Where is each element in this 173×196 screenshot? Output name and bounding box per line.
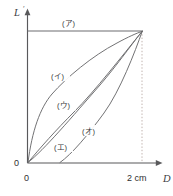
curve-tag-u-group: (ウ) bbox=[56, 100, 76, 111]
curve-tag-u: (ウ) bbox=[57, 101, 71, 110]
x-axis-arrow-icon bbox=[156, 160, 163, 166]
y-axis-arrow-icon bbox=[25, 9, 31, 16]
curve-tag-a: (ア) bbox=[62, 19, 76, 28]
curve-tag-e: (エ) bbox=[54, 143, 68, 152]
curve-tag-a-group: (ア) bbox=[61, 18, 81, 29]
x-origin-tick-label: 0 bbox=[24, 173, 29, 183]
y-origin-tick-label: 0 bbox=[14, 158, 19, 168]
graph-figure: L ′ D 0 0 2 cm (ア) (イ) (ウ) (エ) (オ) bbox=[0, 0, 173, 196]
curve-u bbox=[28, 31, 142, 162]
curve-tag-e-group: (エ) bbox=[53, 141, 73, 152]
x-axis-label: D bbox=[162, 173, 171, 184]
y-axis bbox=[25, 9, 31, 164]
curve-tag-o-group: (オ) bbox=[81, 125, 101, 136]
x-tick-label-2cm: 2 cm bbox=[127, 173, 147, 183]
y-axis-prime-mark: ′ bbox=[23, 5, 25, 14]
curve-tag-i: (イ) bbox=[51, 72, 65, 81]
curve-tag-o: (オ) bbox=[82, 127, 96, 136]
y-axis-label: L bbox=[13, 7, 20, 18]
graph-canvas: L ′ D 0 0 2 cm (ア) (イ) (ウ) (エ) (オ) bbox=[0, 0, 173, 196]
curve-tag-i-group: (イ) bbox=[50, 70, 70, 81]
